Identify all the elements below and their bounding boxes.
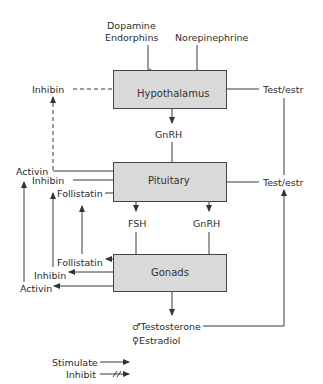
test-estr-top-label: Test/estr [263,84,303,95]
gonads-label: Gonads [151,267,189,278]
follistatin-pituitary-label: Follistatin [57,188,103,199]
pituitary-label: Pituitary [148,175,190,186]
legend-stimulate-label: Stimulate [52,357,98,368]
endorphins-label: Endorphins [105,32,158,43]
inhibin-pituitary-label: Inhibin [32,175,64,186]
fsh-label: FSH [128,218,146,229]
testosterone-label: ♂Testosterone [132,321,201,332]
activin-gonads-label: Activin [20,283,52,294]
follistatin-gonads-label: Follistatin [57,257,103,268]
hypothalamus-label: Hypothalamus [137,88,210,99]
gnrh-right-label: GnRH [193,218,220,229]
legend-inhibit-label: Inhibit [66,369,96,380]
inhibin-top-label: Inhibin [32,84,64,95]
gnrh-label: GnRH [155,129,182,140]
test-estr-pituitary-label: Test/estr [263,177,303,188]
dopamine-label: Dopamine [107,20,156,31]
estradiol-label: ♀Estradiol [132,335,180,346]
norepinephrine-label: Norepinephrine [175,32,248,43]
inhibin-gonads-label: Inhibin [34,270,66,281]
